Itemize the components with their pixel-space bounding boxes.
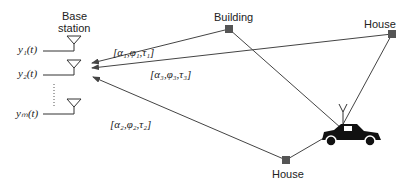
antenna-1-icon	[43, 36, 81, 51]
output-y2-label: y₂(t)	[18, 67, 37, 79]
house-node-icon	[388, 30, 396, 38]
house-label: House	[272, 168, 304, 180]
building-node-icon	[225, 25, 233, 33]
house-label: House	[364, 18, 396, 30]
path-2-params: [α₂,φ₂,τ₂]	[110, 118, 151, 130]
multipath-diagram: Base station y₁(t) y₂(t) yₘ(t) Building …	[0, 0, 412, 192]
antenna-2-icon	[43, 60, 81, 75]
base-station-label: station	[58, 22, 90, 34]
output-ym-label: yₘ(t)	[16, 107, 38, 120]
output-y1-label: y₁(t)	[18, 43, 37, 55]
path-1-params: [α₁,φ₁,τ₁]	[113, 46, 154, 58]
building-to-car-line	[229, 29, 341, 128]
building-label: Building	[214, 11, 253, 23]
path-3-params: [α₃,φ₃,τ₃]	[150, 68, 191, 80]
base-station-label: Base	[62, 10, 87, 22]
antenna-m-icon	[43, 99, 81, 114]
house-to-car-line	[341, 34, 392, 128]
house-node-icon	[282, 156, 290, 164]
car-icon	[322, 104, 381, 146]
